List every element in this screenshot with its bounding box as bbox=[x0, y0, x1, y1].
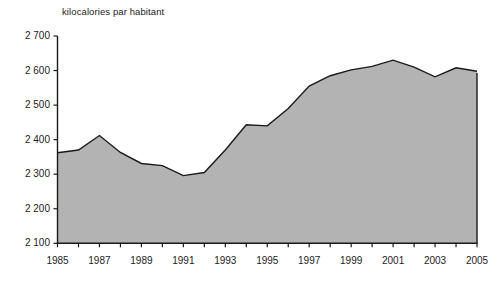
y-axis-tick-label: 2 400 bbox=[6, 135, 50, 145]
y-axis-tick-label: 2 500 bbox=[6, 100, 50, 110]
area-chart-plot bbox=[0, 0, 503, 282]
x-axis-tick-label: 1989 bbox=[121, 256, 161, 266]
y-axis-tick-label: 2 200 bbox=[6, 204, 50, 214]
x-axis-tick-label: 1985 bbox=[38, 256, 78, 266]
x-axis-tick-label: 2003 bbox=[415, 256, 455, 266]
x-axis-tick-label: 1999 bbox=[331, 256, 371, 266]
y-axis-tick-label: 2 600 bbox=[6, 66, 50, 76]
x-axis-tick-label: 1993 bbox=[205, 256, 245, 266]
x-axis-tick-label: 2005 bbox=[457, 256, 497, 266]
y-axis-tick-label: 2 300 bbox=[6, 169, 50, 179]
y-axis-tick-label: 2 700 bbox=[6, 31, 50, 41]
x-axis-tick-label: 1987 bbox=[79, 256, 119, 266]
x-axis-tick-label: 1995 bbox=[247, 256, 287, 266]
x-axis-tick-label: 1997 bbox=[289, 256, 329, 266]
x-axis-tick-label: 2001 bbox=[373, 256, 413, 266]
y-axis-tick-label: 2 100 bbox=[6, 238, 50, 248]
x-axis-ticks bbox=[58, 243, 478, 247]
chart-container: kilocalories par habitant 2 7002 6002 50… bbox=[0, 0, 503, 282]
x-axis-tick-label: 1991 bbox=[163, 256, 203, 266]
